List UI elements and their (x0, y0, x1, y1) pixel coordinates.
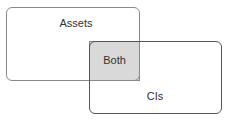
cis-set-box (89, 41, 222, 114)
assets-label: Assets (56, 17, 96, 29)
cis-label: CIs (140, 90, 170, 102)
both-label: Both (89, 54, 140, 66)
